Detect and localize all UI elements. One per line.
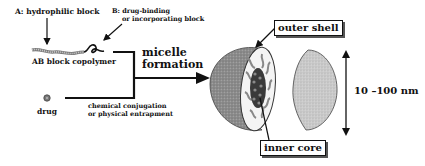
drug-label: drug [37, 108, 57, 116]
diagram-canvas [0, 0, 425, 166]
process-label-line1: micelle [142, 47, 187, 59]
micelle-inner-core [250, 68, 266, 108]
micelle-cap [293, 50, 337, 130]
method-label-line2: or physical entrapment [88, 111, 173, 118]
size-label: 10 –100 nm [354, 86, 419, 96]
inner-core-label: inner core [260, 140, 326, 156]
process-label-line2: formation [142, 59, 203, 71]
outer-shell-pointer-arrow [256, 27, 276, 47]
outer-shell-label: outer shell [274, 20, 343, 36]
block-a-label: A: hydrophilic block [15, 8, 100, 16]
size-double-arrow [342, 50, 350, 136]
block-b-label-line2: or incorporating block [122, 16, 204, 23]
drug-icon [44, 95, 50, 101]
ab-block-copolymer-icon [32, 45, 104, 54]
block-b-pointer-arrow [104, 24, 122, 40]
copolymer-label: AB block copolymer [32, 58, 116, 66]
